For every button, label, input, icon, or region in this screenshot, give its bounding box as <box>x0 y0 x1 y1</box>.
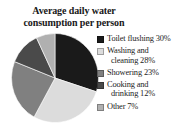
legend-label-line: Washing and <box>107 46 155 56</box>
legend-label-other: Other 7% <box>107 102 138 112</box>
legend-item-other[interactable]: Other 7% <box>97 102 187 112</box>
pie-svg <box>11 33 99 123</box>
pie-chart-figure: Average daily water consumption per pers… <box>0 0 189 130</box>
legend-label-cooking-and-drinking: Cooking and drinking 12% <box>107 80 155 99</box>
legend-swatch-icon-showering <box>97 70 104 77</box>
legend-label-line: cleaning 28% <box>107 56 155 66</box>
legend-label-toilet-flushing: Toilet flushing 30% <box>107 34 171 44</box>
legend-label-line: Showering 23% <box>107 68 159 78</box>
legend-label-line: Cooking and <box>107 80 155 90</box>
chart-title-line-2: consumption per person <box>8 17 140 29</box>
legend-label-washing-and-cleaning: Washing and cleaning 28% <box>107 46 155 65</box>
legend-swatch-icon-washing-and-cleaning <box>97 48 104 55</box>
legend-item-toilet-flushing[interactable]: Toilet flushing 30% <box>97 34 187 44</box>
legend-swatch-icon-cooking-and-drinking <box>97 82 104 89</box>
chart-title: Average daily water consumption per pers… <box>8 5 140 28</box>
legend-label-line: Toilet flushing 30% <box>107 34 171 44</box>
pie-plot-area <box>11 33 99 123</box>
legend-item-washing-and-cleaning[interactable]: Washing and cleaning 28% <box>97 46 187 65</box>
legend-item-cooking-and-drinking[interactable]: Cooking and drinking 12% <box>97 80 187 99</box>
legend-swatch-icon-other <box>97 104 104 111</box>
legend-label-line: Other 7% <box>107 102 138 112</box>
chart-legend: Toilet flushing 30% Washing and cleaning… <box>97 34 187 114</box>
legend-swatch-icon-toilet-flushing <box>97 36 104 43</box>
legend-label-showering: Showering 23% <box>107 68 159 78</box>
legend-label-line: drinking 12% <box>107 89 155 99</box>
chart-title-line-1: Average daily water <box>8 5 140 17</box>
pie-slices <box>11 34 98 123</box>
legend-item-showering[interactable]: Showering 23% <box>97 68 187 78</box>
